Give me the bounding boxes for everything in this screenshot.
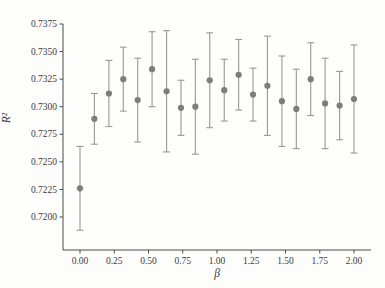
data-series-layer bbox=[77, 31, 358, 231]
data-point-marker bbox=[192, 104, 198, 110]
error-bar-point bbox=[221, 59, 228, 121]
x-tick-label: 1.25 bbox=[243, 256, 260, 266]
errorbar-figure: 0.73750.73500.73250.73000.72750.72500.72… bbox=[0, 0, 385, 288]
error-bar-point bbox=[192, 59, 199, 154]
data-point-marker bbox=[120, 76, 126, 82]
y-tick-label: 0.7325 bbox=[31, 74, 57, 84]
error-bar-point bbox=[279, 56, 286, 146]
data-point-marker bbox=[250, 91, 256, 97]
error-bar-point bbox=[235, 39, 242, 110]
data-point-marker bbox=[77, 185, 83, 191]
data-point-marker bbox=[135, 97, 141, 103]
x-tick-label: 0.50 bbox=[140, 256, 157, 266]
y-tick-label: 0.7300 bbox=[31, 102, 57, 112]
error-bar-point bbox=[134, 58, 141, 142]
data-point-marker bbox=[293, 106, 299, 112]
error-bar-point bbox=[106, 60, 113, 126]
y-tick-label: 0.7200 bbox=[31, 212, 57, 222]
error-bar-point bbox=[163, 31, 170, 152]
x-axis-label: β bbox=[213, 267, 220, 280]
y-tick-label: 0.7375 bbox=[31, 19, 57, 29]
error-bar-point bbox=[120, 47, 127, 111]
error-bar-point bbox=[206, 33, 213, 128]
error-bar-point bbox=[250, 68, 257, 121]
data-point-marker bbox=[322, 100, 328, 106]
error-bar-point bbox=[149, 32, 156, 107]
data-point-marker bbox=[308, 76, 314, 82]
errorbar-chart-canvas: 0.73750.73500.73250.73000.72750.72500.72… bbox=[0, 0, 385, 288]
data-point-marker bbox=[178, 105, 184, 111]
data-point-marker bbox=[163, 88, 169, 94]
data-point-marker bbox=[279, 98, 285, 104]
error-bar-point bbox=[322, 58, 329, 148]
error-bar-point bbox=[336, 71, 343, 139]
x-tick-label: 1.50 bbox=[277, 256, 294, 266]
error-bar-point bbox=[351, 45, 358, 153]
error-bar-point bbox=[293, 69, 300, 148]
data-point-marker bbox=[221, 87, 227, 93]
y-tick-label: 0.7350 bbox=[31, 47, 57, 57]
x-tick-label: 0.75 bbox=[174, 256, 191, 266]
data-point-marker bbox=[106, 90, 112, 96]
data-point-marker bbox=[91, 116, 97, 122]
error-bar-point bbox=[91, 93, 98, 144]
x-tick-label: 1.75 bbox=[311, 256, 328, 266]
data-point-marker bbox=[149, 66, 155, 72]
error-bar-point bbox=[307, 43, 314, 116]
data-point-marker bbox=[207, 77, 213, 83]
error-bar-point bbox=[77, 146, 84, 230]
error-bar-point bbox=[178, 80, 185, 135]
data-point-marker bbox=[351, 96, 357, 102]
y-tick-label: 0.7225 bbox=[31, 185, 57, 195]
error-bar-point bbox=[264, 36, 271, 135]
x-tick-label: 0.00 bbox=[72, 256, 89, 266]
axes-layer: 0.73750.73500.73250.73000.72750.72500.72… bbox=[31, 19, 371, 266]
y-tick-label: 0.7250 bbox=[31, 157, 57, 167]
data-point-marker bbox=[236, 72, 242, 78]
x-tick-label: 0.25 bbox=[106, 256, 123, 266]
y-axis-label: R² bbox=[0, 112, 12, 124]
y-tick-label: 0.7275 bbox=[31, 129, 57, 139]
data-point-marker bbox=[264, 83, 270, 89]
x-tick-label: 1.00 bbox=[209, 256, 226, 266]
data-point-marker bbox=[337, 103, 343, 109]
x-tick-label: 2.00 bbox=[346, 256, 363, 266]
